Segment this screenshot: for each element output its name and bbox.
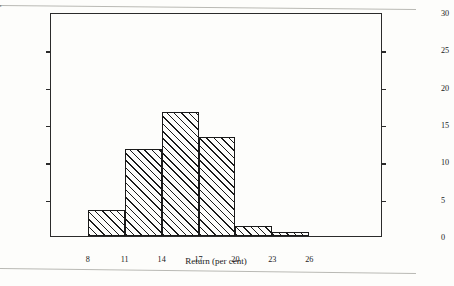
y-axis-title: Frequency (Number of Trials) [0, 0, 1, 50]
scan-artifact-top-line [0, 5, 416, 10]
x-axis-title: Return (per cent) [50, 256, 382, 266]
y-tick-label-right: 10 [441, 159, 454, 167]
y-tick-mark-right [381, 201, 386, 202]
histogram-bar [272, 232, 309, 236]
y-tick-mark-right [381, 51, 386, 52]
y-tick-mark-left [46, 89, 51, 90]
plot-area [51, 14, 381, 236]
histogram-bar [125, 149, 162, 236]
y-tick-mark-left [46, 51, 51, 52]
scan-artifact-bottom-line [0, 268, 416, 274]
histogram-bar [199, 137, 236, 236]
y-tick-label-right: 25 [441, 47, 454, 55]
y-tick-mark-left [46, 163, 51, 164]
y-tick-mark-left [46, 201, 51, 202]
y-tick-mark-right [381, 126, 386, 127]
y-tick-label-right: 0 [441, 234, 454, 242]
y-tick-mark-right [381, 163, 386, 164]
y-tick-label-right: 20 [441, 85, 454, 93]
y-tick-label-right: 30 [441, 10, 454, 18]
y-tick-mark-right [381, 89, 386, 90]
histogram-bar [235, 226, 272, 236]
plot-frame: 051015202530 051015202530 8111417202326 [50, 13, 382, 237]
histogram-bar [88, 210, 125, 236]
y-tick-label-right: 5 [441, 197, 454, 205]
y-tick-mark-left [46, 126, 51, 127]
histogram-bar [162, 112, 199, 236]
y-tick-label-right: 15 [441, 122, 454, 130]
